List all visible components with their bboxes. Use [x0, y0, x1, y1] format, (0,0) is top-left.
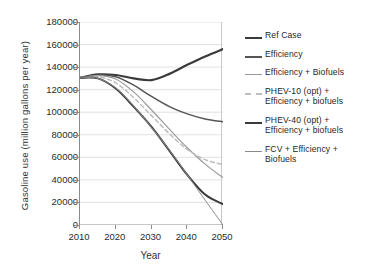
legend-item-label: Efficiency	[265, 49, 303, 60]
x-axis-title: Year	[79, 250, 222, 261]
y-tick-label: 180000	[18, 17, 78, 27]
y-tick-label: 140000	[18, 62, 78, 72]
y-tick-label: 60000	[18, 152, 78, 162]
legend-item-label: Efficiency + Biofuels	[265, 67, 344, 78]
x-tick-mark	[79, 225, 80, 229]
legend-item[interactable]: PHEV-10 (opt) +Efficiency + biofuels	[245, 86, 375, 107]
y-tick-label: 120000	[18, 85, 78, 95]
legend-line-swatch-icon	[245, 33, 262, 43]
series-canvas	[80, 22, 223, 225]
x-tick-label: 2030	[131, 231, 171, 242]
chart-legend: Ref CaseEfficiencyEfficiency + BiofuelsP…	[245, 30, 375, 173]
plot-area	[79, 22, 222, 225]
x-tick-label: 2050	[202, 231, 242, 242]
y-tick-label: 80000	[18, 130, 78, 140]
y-tick-label: 160000	[18, 40, 78, 50]
legend-line-swatch-icon	[245, 147, 262, 157]
legend-item[interactable]: Ref Case	[245, 30, 375, 41]
legend-line-swatch-icon	[245, 89, 262, 99]
x-tick-mark	[186, 225, 187, 229]
legend-item-label: PHEV-10 (opt) +Efficiency + biofuels	[265, 86, 343, 107]
legend-item-label: Ref Case	[265, 30, 302, 41]
y-tick-label: 20000	[18, 197, 78, 207]
legend-item[interactable]: Efficiency + Biofuels	[245, 67, 375, 78]
y-tick-label: 0	[18, 220, 78, 230]
y-tick-label: 100000	[18, 107, 78, 117]
x-tick-mark	[115, 225, 116, 229]
legend-line-swatch-icon	[245, 70, 262, 80]
legend-item[interactable]: PHEV-40 (opt) +Efficiency + biofuels	[245, 115, 375, 136]
x-tick-label: 2010	[59, 231, 99, 242]
legend-item-label: FCV + Efficiency +Biofuels	[265, 144, 338, 165]
series-line	[80, 77, 223, 225]
legend-line-swatch-icon	[245, 118, 262, 128]
x-tick-label: 2040	[166, 231, 206, 242]
gasoline-use-line-chart: Gasoline use (million gallons per year) …	[0, 0, 375, 273]
x-tick-mark	[222, 225, 223, 229]
legend-item-label: PHEV-40 (opt) +Efficiency + biofuels	[265, 115, 343, 136]
x-tick-label: 2020	[95, 231, 135, 242]
legend-item[interactable]: Efficiency	[245, 49, 375, 60]
legend-item[interactable]: FCV + Efficiency +Biofuels	[245, 144, 375, 165]
y-tick-label: 40000	[18, 175, 78, 185]
legend-line-swatch-icon	[245, 52, 262, 62]
x-tick-mark	[151, 225, 152, 229]
